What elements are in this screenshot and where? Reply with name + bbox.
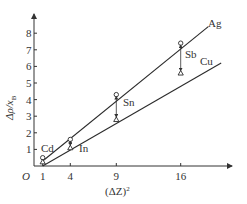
- triangle-marker: [114, 117, 119, 122]
- y-axis-title: Δρ/xB: [3, 95, 18, 121]
- y-tick-label: 6: [26, 60, 32, 72]
- x-tick-label: 4: [68, 170, 74, 182]
- y-tick-label: 5: [26, 77, 32, 89]
- triangle-marker: [68, 145, 73, 150]
- circle-marker: [179, 41, 183, 45]
- series-label-cu: Cu: [200, 55, 213, 67]
- solute-label-in: In: [79, 142, 89, 154]
- fit-line-ag: [43, 27, 209, 161]
- x-tick-label: 16: [175, 170, 187, 182]
- x-axis-title: (ΔZ)2: [105, 185, 130, 198]
- y-tick-label: 8: [26, 27, 32, 39]
- origin-label: O: [22, 170, 30, 182]
- solute-label-sb: Sb: [185, 48, 197, 60]
- axes: [34, 14, 232, 166]
- circle-marker: [114, 92, 118, 96]
- series-label-ag: Ag: [208, 17, 222, 29]
- circle-marker: [68, 137, 72, 141]
- y-tick-label: 3: [26, 110, 32, 122]
- triangle-marker: [178, 70, 183, 75]
- y-tick-label: 7: [26, 44, 32, 56]
- solute-label-cd: Cd: [41, 142, 54, 154]
- y-tick-label: 1: [26, 143, 32, 155]
- chart: 12345678 14916 O (ΔZ)2 Δρ/xB Ag Cu Cd In…: [0, 0, 247, 204]
- y-tick-label: 2: [26, 127, 32, 139]
- solute-label-sn: Sn: [123, 96, 135, 108]
- y-tick-label: 4: [26, 94, 32, 106]
- y-ticks: 12345678: [26, 27, 37, 155]
- x-tick-label: 1: [40, 170, 46, 182]
- x-tick-label: 9: [114, 170, 120, 182]
- fit-line-cu: [43, 63, 221, 166]
